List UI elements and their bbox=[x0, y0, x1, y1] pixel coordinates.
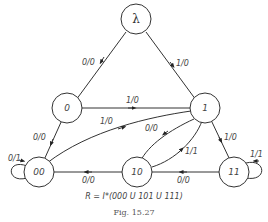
label-0-1: 1/0 bbox=[126, 96, 139, 105]
label-11-self: 1/1 bbox=[250, 150, 263, 159]
label-00-1: 1/0 bbox=[100, 117, 113, 126]
node-0: 0 bbox=[52, 93, 82, 123]
node-00: 00 bbox=[24, 157, 54, 187]
node-lambda-label: λ bbox=[132, 12, 140, 26]
label-10-1: 1/1 bbox=[185, 147, 198, 156]
label-10-00: 0/0 bbox=[82, 176, 95, 185]
node-11-label: 11 bbox=[228, 167, 239, 177]
label-lambda-0: 0/0 bbox=[82, 58, 95, 67]
node-10-label: 10 bbox=[131, 167, 143, 177]
state-diagram: 0/0 1/0 1/0 0/0 1/0 0/1 0/0 1/1 1/0 1/1 … bbox=[0, 0, 268, 222]
label-00-self: 0/1 bbox=[8, 154, 21, 163]
label-lambda-1: 1/0 bbox=[176, 59, 189, 68]
node-1-label: 1 bbox=[202, 103, 208, 113]
node-00-label: 00 bbox=[33, 167, 45, 177]
formula: R = I*(000 U 101 U 111) bbox=[0, 192, 268, 201]
node-1: 1 bbox=[190, 93, 220, 123]
label-1-11: 1/0 bbox=[224, 133, 237, 142]
node-lambda: λ bbox=[121, 4, 151, 34]
label-11-10: 0/0 bbox=[177, 176, 190, 185]
label-1-10: 0/0 bbox=[145, 124, 158, 133]
label-0-00: 0/0 bbox=[33, 133, 46, 142]
node-0-label: 0 bbox=[64, 103, 70, 113]
figure-caption: Fig. 15.27 bbox=[0, 208, 268, 217]
node-11: 11 bbox=[219, 157, 249, 187]
node-10: 10 bbox=[122, 157, 152, 187]
